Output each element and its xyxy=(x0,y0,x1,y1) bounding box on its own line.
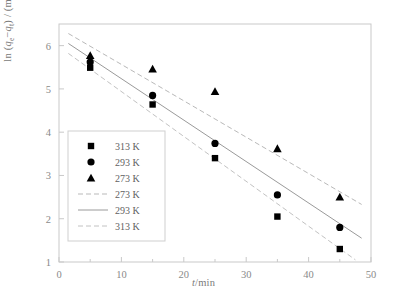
x-tick-label: 0 xyxy=(56,269,61,280)
data-point-313-K xyxy=(274,213,280,219)
y-tick-label: 1 xyxy=(46,257,51,268)
y-axis-ticks: 123456 xyxy=(46,41,64,268)
legend-label-4: 293 K xyxy=(115,205,141,216)
data-point-273-K xyxy=(86,51,95,59)
data-point-293-K xyxy=(87,58,94,65)
y-tick-label: 5 xyxy=(46,84,51,95)
x-axis-ticks: 01020304050 xyxy=(56,257,376,280)
legend-label-3: 273 K xyxy=(115,189,141,200)
y-tick-label: 2 xyxy=(46,214,51,225)
y-tick-label: 4 xyxy=(46,127,52,138)
data-point-293-K xyxy=(336,224,343,231)
legend-label-2: 273 K xyxy=(115,173,141,184)
x-tick-label: 50 xyxy=(366,269,377,280)
data-point-273-K xyxy=(148,65,157,73)
x-tick-label: 10 xyxy=(116,269,127,280)
data-point-273-K xyxy=(273,144,282,152)
data-point-273-K xyxy=(211,87,220,95)
legend-label-1: 293 K xyxy=(115,157,141,168)
data-point-293-K xyxy=(149,92,156,99)
data-point-293-K xyxy=(211,140,218,147)
scatter-plot: 01020304050 123456 313 K293 K273 K273 K2… xyxy=(0,0,407,299)
data-point-313-K xyxy=(212,155,218,161)
y-tick-label: 6 xyxy=(46,41,51,52)
legend-marker-1 xyxy=(87,158,94,165)
legend-label-5: 313 K xyxy=(115,221,141,232)
x-tick-label: 40 xyxy=(303,269,314,280)
y-tick-label: 3 xyxy=(46,170,51,181)
x-tick-label: 30 xyxy=(241,269,252,280)
x-tick-label: 20 xyxy=(179,269,190,280)
data-point-273-K xyxy=(336,193,345,201)
legend-marker-0 xyxy=(88,143,94,149)
data-point-313-K xyxy=(337,246,343,252)
legend: 313 K293 K273 K273 K293 K313 K xyxy=(68,131,165,241)
legend-label-0: 313 K xyxy=(115,141,141,152)
data-point-293-K xyxy=(274,191,281,198)
chart-figure: ln (qe−qt) / (mg/g) t/min 01020304050 12… xyxy=(0,0,407,299)
data-point-313-K xyxy=(149,101,155,107)
